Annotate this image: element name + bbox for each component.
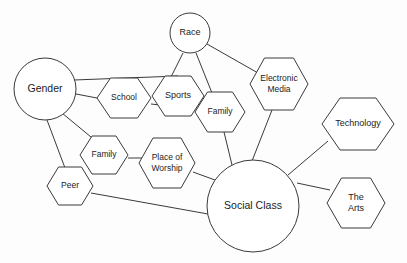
node-label-emedia: Media [267,84,290,94]
node-peer[interactable]: Peer [47,167,93,205]
edge-worship-social [193,172,215,180]
node-race[interactable]: Race [170,13,210,53]
edge-gender-peer [47,120,65,168]
node-label-worship: Place of [152,152,183,162]
node-label-technology: Technology [335,118,381,128]
node-label-emedia: Electronic [260,73,298,83]
node-label-arts: Arts [348,203,365,213]
node-label-school: School [111,92,137,102]
edge-technology-social [288,141,328,175]
node-social[interactable]: Social Class [207,160,299,252]
node-label-family_top: Family [207,106,233,116]
node-label-family_low: Family [91,149,117,159]
node-label-worship: Worship [151,163,182,173]
edge-family-top-social [224,132,232,165]
node-gender[interactable]: Gender [14,58,76,120]
diagram-canvas: GenderRaceSocial ClassSchoolSportsFamily… [0,0,407,263]
node-school[interactable]: School [97,78,151,118]
node-label-gender: Gender [27,82,63,94]
node-emedia[interactable]: ElectronicMedia [250,58,308,110]
node-technology[interactable]: Technology [322,98,394,150]
node-label-sports: Sports [165,90,192,100]
node-label-social: Social Class [224,199,282,211]
node-label-peer: Peer [61,180,79,190]
node-worship[interactable]: Place ofWorship [139,138,195,188]
node-label-race: Race [179,27,200,37]
edge-arts-social [297,183,330,190]
edge-race-sports [171,53,183,77]
concept-map-diagram: GenderRaceSocial ClassSchoolSportsFamily… [0,0,407,263]
node-arts[interactable]: TheArts [327,178,385,228]
edge-race-emedia [207,44,258,73]
edge-gender-school [76,94,97,98]
node-family_low[interactable]: Family [80,136,128,174]
edge-peer-social [91,193,208,214]
node-layer: GenderRaceSocial ClassSchoolSportsFamily… [14,13,394,252]
edge-emedia-social [252,110,272,161]
node-label-arts: The [348,192,364,202]
